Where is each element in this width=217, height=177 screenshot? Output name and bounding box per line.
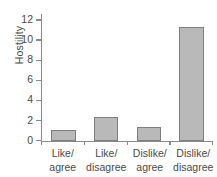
x-tick-mark	[41, 141, 42, 146]
x-axis-label-line: Like/	[85, 146, 129, 160]
x-axis-label: Dislike/disagree	[172, 146, 216, 176]
x-axis-label-line: agree	[128, 160, 172, 174]
y-tick-label: 4	[0, 93, 33, 106]
bar	[137, 127, 162, 141]
x-axis-label-line: disagree	[172, 160, 216, 174]
bar-chart: Hostility 024681012 Like/agreeLike/disag…	[0, 0, 217, 177]
bar	[51, 130, 76, 141]
y-tick-label: 12	[0, 13, 33, 26]
y-tick-mark	[36, 120, 41, 121]
y-tick-mark	[36, 39, 41, 40]
y-tick-label: 6	[0, 73, 33, 86]
x-axis-label-line: Dislike/	[172, 146, 216, 160]
x-tick-mark	[84, 141, 85, 146]
x-axis-label-line: disagree	[85, 160, 129, 174]
x-tick-mark	[212, 141, 213, 146]
y-tick-label: 0	[0, 134, 33, 147]
y-tick-mark	[36, 60, 41, 61]
x-axis-label: Like/agree	[41, 146, 85, 176]
x-axis-label: Dislike/agree	[128, 146, 172, 176]
y-tick-mark	[36, 80, 41, 81]
x-axis-label-line: Like/	[41, 146, 85, 160]
x-axis-label: Like/disagree	[85, 146, 129, 176]
bar	[94, 117, 119, 140]
y-tick-label: 10	[0, 33, 33, 46]
x-axis-label-line: Dislike/	[128, 146, 172, 160]
x-tick-mark	[169, 141, 170, 146]
x-tick-mark	[127, 141, 128, 146]
y-tick-label: 8	[0, 53, 33, 66]
y-tick-label: 2	[0, 114, 33, 127]
y-tick-mark	[36, 19, 41, 20]
bar	[179, 27, 204, 141]
x-axis-label-line: agree	[41, 160, 85, 174]
y-tick-mark	[36, 100, 41, 101]
bars-group	[42, 14, 213, 141]
x-axis-labels: Like/agreeLike/disagreeDislike/agreeDisl…	[41, 146, 215, 176]
